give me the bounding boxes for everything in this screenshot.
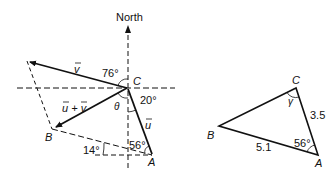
angle-arc-20 bbox=[128, 110, 136, 112]
angle-76-label: 76° bbox=[102, 67, 119, 79]
tri-side-ca-label: 3.5 bbox=[310, 109, 325, 121]
angle-14-label: 14° bbox=[83, 144, 100, 156]
angle-20-label: 20° bbox=[140, 94, 157, 106]
angle-arc-76 bbox=[118, 79, 128, 86]
angle-56-label: 56° bbox=[129, 139, 146, 151]
north-arrow-icon bbox=[125, 25, 131, 33]
point-a-label: A bbox=[147, 156, 155, 168]
vector-u-label: u bbox=[145, 119, 151, 131]
north-label: North bbox=[116, 11, 143, 23]
right-triangle-diagram: C γ 3.5 B 56° 5.1 A bbox=[207, 74, 325, 169]
tri-point-c-label: C bbox=[292, 74, 300, 86]
vector-diagram-canvas: North v 76° C u + v θ 20° u B 56° bbox=[0, 0, 335, 177]
parallelogram-side-dashed bbox=[27, 61, 52, 129]
vector-v-label: v bbox=[74, 63, 81, 75]
tri-angle-gamma-label: γ bbox=[288, 96, 294, 107]
left-vector-diagram: North v 76° C u + v θ 20° u B 56° bbox=[17, 11, 175, 168]
vector-sum-label: u + v bbox=[62, 102, 88, 114]
tri-side-ba-label: 5.1 bbox=[256, 141, 271, 153]
angle-arc-14 bbox=[103, 143, 104, 155]
point-c-label: C bbox=[133, 75, 141, 87]
tri-point-a-label: A bbox=[314, 157, 322, 169]
angle-arc-theta bbox=[118, 93, 128, 98]
point-b-label: B bbox=[45, 131, 52, 143]
tri-angle-a-label: 56° bbox=[294, 137, 311, 149]
angle-theta-label: θ bbox=[114, 101, 120, 112]
tri-point-b-label: B bbox=[207, 129, 214, 141]
